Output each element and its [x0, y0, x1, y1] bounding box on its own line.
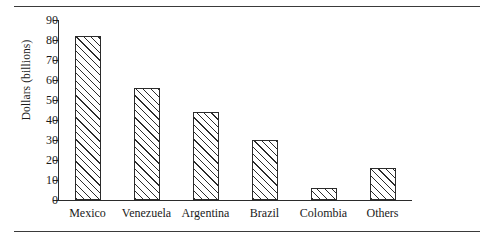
- y-tick-label: 0: [14, 194, 58, 206]
- y-tick-label: 80: [14, 34, 58, 46]
- x-tick-label: Argentina: [176, 206, 235, 220]
- plot-area: 0102030405060708090 MexicoVenezuelaArgen…: [0, 0, 494, 238]
- x-axis-line: [58, 200, 412, 201]
- y-tick-label: 20: [14, 154, 58, 166]
- y-tick-label: 40: [14, 114, 58, 126]
- figure-container: Dollars (billions) 0102030405060708090 M…: [0, 0, 494, 238]
- x-tick-label: Others: [353, 206, 412, 220]
- y-tick-label: 50: [14, 94, 58, 106]
- y-axis-line: [58, 20, 59, 201]
- bar-others: [370, 168, 396, 200]
- bar-brazil: [252, 140, 278, 200]
- bar-argentina: [193, 112, 219, 200]
- y-tick-label: 70: [14, 54, 58, 66]
- bar-mexico: [75, 36, 101, 200]
- y-tick-label: 60: [14, 74, 58, 86]
- x-tick-label: Brazil: [235, 206, 294, 220]
- x-tick-label: Venezuela: [117, 206, 176, 220]
- x-tick-label: Colombia: [294, 206, 353, 220]
- x-tick-label: Mexico: [58, 206, 117, 220]
- y-tick-label: 10: [14, 174, 58, 186]
- y-tick-label: 90: [14, 14, 58, 26]
- bar-colombia: [311, 188, 337, 200]
- y-tick-label: 30: [14, 134, 58, 146]
- bar-venezuela: [134, 88, 160, 200]
